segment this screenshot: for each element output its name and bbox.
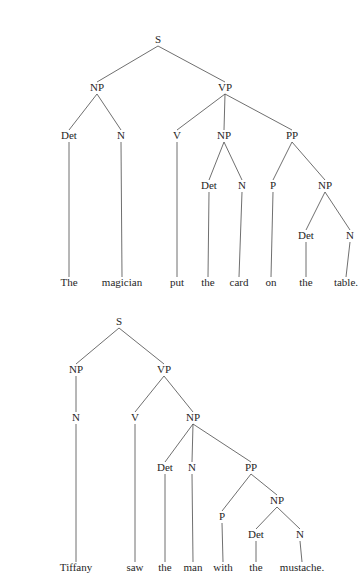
tree-node-label: S [116,315,122,327]
tree-word-label: table. [334,276,358,288]
tree-edge [97,94,121,130]
tree-word-label: the [201,276,215,288]
tree-edge [224,142,242,180]
tree-edge [277,507,300,529]
tree-node-label: NP [270,494,284,506]
tree-node-label: P [270,179,276,191]
tree-edge [69,94,97,130]
tree-edge [158,46,225,82]
tree-leaf-stem [222,523,223,562]
tree-edges [69,46,350,277]
tree-leaf-stem [271,192,273,277]
tree-edge [193,424,251,462]
tree-word-label: Tiffany [60,561,93,573]
tree-canvas-2: SNPVPNVNPDetNPPNPPDetNTiffanysawthemanwi… [40,306,362,578]
tree-node-label: N [296,528,304,540]
tree-node-label: Det [61,129,77,141]
tree-node-label: NP [217,129,231,141]
tree-word-label: card [230,276,249,288]
tree-edges [76,328,302,562]
tree-leaf-stem [192,474,193,562]
tree-node-label: NP [90,81,104,93]
tree-word-label: the [249,561,263,573]
tree-node-label: Det [157,461,173,473]
tree-node-label: N [72,411,80,423]
tree-word-label: put [170,276,184,288]
tree-edge [224,94,225,130]
tree-edge [251,474,277,495]
tree-edge [222,474,251,511]
tree-nodes: SNPVPDetNVNPPPDetNPNPDetN [61,33,354,241]
tree-leaf-stem [239,192,242,277]
tree-edge [209,142,224,180]
tree-edge [306,192,325,230]
tree-node-label: VP [157,363,171,375]
tree-edge [164,376,193,412]
tree-node-label: NP [69,363,83,375]
tree-node-label: PP [245,461,257,473]
syntax-tree-figure-2: SNPVPNVNPDetNPPNPPDetNTiffanysawthemanwi… [40,306,362,578]
tree-node-label: NP [186,411,200,423]
tree-edge [177,94,225,130]
tree-edge [165,424,193,462]
tree-node-label: S [155,33,161,45]
tree-node-label: P [219,510,225,522]
tree-edge [119,328,164,364]
tree-word-label: with [213,561,233,573]
tree-word-label: on [266,276,278,288]
tree-node-label: NP [318,179,332,191]
tree-word-label: the [299,276,313,288]
tree-word-label: magician [102,276,143,288]
tree-edge [273,142,292,180]
tree-node-label: V [131,411,139,423]
tree-edge [135,376,164,412]
tree-edge [97,46,158,82]
tree-node-label: VP [218,81,232,93]
tree-node-label: N [188,461,196,473]
tree-edge [256,507,277,529]
tree-leaf-stem [121,142,122,277]
tree-edge [325,192,350,230]
tree-leaf-stem [346,242,350,277]
tree-node-label: Det [201,179,217,191]
tree-canvas-1: SNPVPDetNVNPPPDetNPNPDetNThemagicianputt… [40,16,362,306]
tree-node-label: Det [298,229,314,241]
tree-nodes: SNPVPNVNPDetNPPNPPDetN [69,315,304,540]
tree-edge [225,94,292,130]
syntax-tree-figure-1: SNPVPDetNVNPPPDetNPNPDetNThemagicianputt… [40,16,362,306]
tree-edge [192,424,193,462]
tree-edge [76,328,119,364]
tree-node-label: PP [286,129,298,141]
tree-node-label: V [173,129,181,141]
tree-word-label: man [184,561,203,573]
tree-word-label: the [158,561,172,573]
tree-word-label: mustache. [280,561,325,573]
tree-leaf-stem [208,192,209,277]
tree-word-label: saw [126,561,143,573]
tree-node-label: N [117,129,125,141]
tree-leaves: Tiffanysawthemanwiththemustache. [60,561,325,573]
tree-node-label: Det [248,528,264,540]
tree-node-label: N [238,179,246,191]
tree-leaves: Themagicianputthecardonthetable. [60,276,358,288]
tree-node-label: N [346,229,354,241]
tree-leaf-stem [300,541,302,562]
tree-edge [292,142,325,180]
tree-word-label: The [60,276,77,288]
